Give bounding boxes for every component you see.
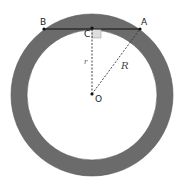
point-A bbox=[138, 27, 141, 30]
label-O: O bbox=[95, 94, 102, 104]
annulus-diagram: B A C O r R bbox=[0, 0, 182, 190]
point-O bbox=[90, 92, 93, 95]
label-B: B bbox=[40, 17, 46, 27]
point-B bbox=[42, 27, 45, 30]
label-C: C bbox=[84, 29, 90, 39]
right-angle-marker bbox=[92, 29, 101, 38]
label-R: R bbox=[120, 60, 129, 71]
point-C bbox=[90, 26, 93, 29]
label-A: A bbox=[141, 17, 148, 27]
